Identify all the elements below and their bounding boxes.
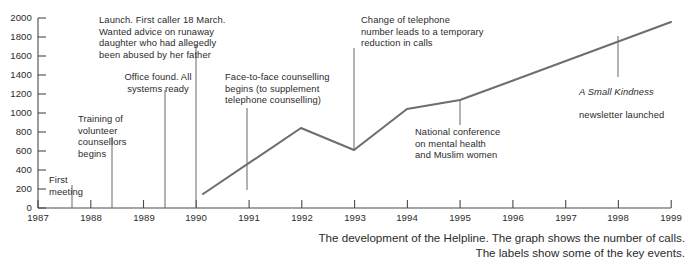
x-tick-label-1993: 1993	[334, 212, 376, 223]
x-tick-label-1996: 1996	[492, 212, 534, 223]
x-tick-label-1994: 1994	[386, 212, 428, 223]
y-tick-label-800: 800	[0, 126, 32, 137]
chart-caption: The development of the Helpline. The gra…	[319, 230, 686, 260]
y-tick-label-2000: 2000	[0, 12, 32, 23]
annotation-small-kindness-title: A Small Kindness	[579, 86, 654, 97]
x-tick-label-1992: 1992	[281, 212, 323, 223]
y-tick-label-200: 200	[0, 183, 32, 194]
annotation-change-of-telephone-number: Change of telephone number leads to a te…	[361, 14, 511, 49]
annotation-small-kindness-body: newsletter launched	[579, 109, 664, 120]
helpline-timeline-chart: 0 200 400 600 800 1000 1200 1400 1600 18…	[0, 0, 689, 265]
x-tick-label-1989: 1989	[123, 212, 165, 223]
y-tick-label-1800: 1800	[0, 31, 32, 42]
x-axis-ticks	[38, 200, 671, 208]
annotation-training-volunteer-counsellors: Training of volunteer counsellors begins	[78, 113, 158, 159]
annotation-face-to-face-counselling: Face-to-face counselling begins (to supp…	[225, 71, 360, 106]
x-tick-label-1997: 1997	[545, 212, 587, 223]
y-tick-label-1600: 1600	[0, 50, 32, 61]
annotation-first-meeting: First meeting	[49, 174, 109, 197]
annotation-launch-first-caller: Launch. First caller 18 March. Wanted ad…	[99, 14, 259, 60]
annotation-office-found: Office found. All systems ready	[102, 71, 214, 94]
x-tick-label-1991: 1991	[228, 212, 270, 223]
x-tick-label-1999: 1999	[650, 212, 689, 223]
x-tick-label-1998: 1998	[597, 212, 639, 223]
annotation-small-kindness-newsletter: A Small Kindness newsletter launched	[579, 74, 689, 120]
x-tick-label-1988: 1988	[70, 212, 112, 223]
x-tick-label-1987: 1987	[17, 212, 59, 223]
y-tick-label-1000: 1000	[0, 107, 32, 118]
y-tick-label-600: 600	[0, 145, 32, 156]
y-axis-ticks	[38, 18, 46, 208]
x-tick-label-1990: 1990	[175, 212, 217, 223]
x-tick-label-1995: 1995	[439, 212, 481, 223]
annotation-national-conference: National conference on mental health and…	[415, 126, 535, 161]
y-tick-label-1400: 1400	[0, 69, 32, 80]
y-tick-label-400: 400	[0, 164, 32, 175]
y-tick-label-1200: 1200	[0, 88, 32, 99]
